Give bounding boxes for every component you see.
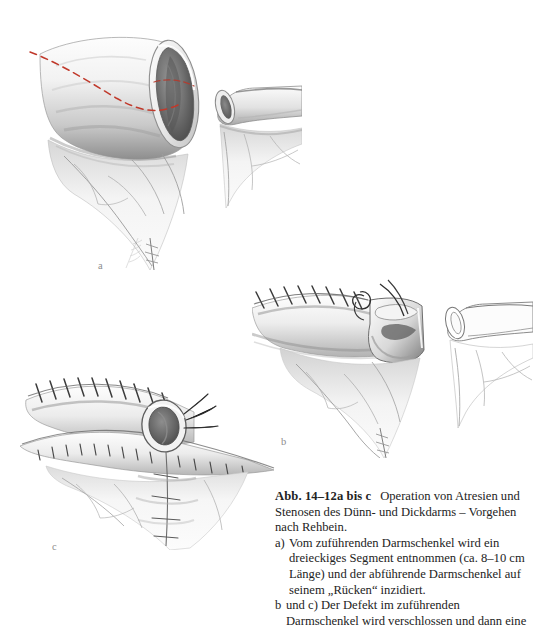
figure-panel-b: [252, 278, 533, 458]
panel-label-c: c: [52, 541, 57, 552]
figure-number: Abb. 14–12a bis c: [275, 489, 371, 503]
panel-label-a: a: [98, 260, 103, 271]
caption-text-b: und c) Der Defekt im zuführenden Darmsch…: [286, 598, 531, 629]
figure-page: a: [0, 0, 533, 632]
figure-panel-c: [18, 368, 280, 550]
artist-signature: [118, 228, 158, 272]
caption-marker-a: a): [275, 536, 289, 552]
figure-caption: Abb. 14–12a bis cOperation von Atresien …: [275, 489, 531, 629]
panel-label-b: b: [281, 436, 287, 447]
caption-item-a: a) Vom zuführenden Darmschenkel wird ein…: [275, 536, 531, 598]
mesentery-b: [280, 348, 420, 458]
caption-item-b: b und c) Der Defekt im zuführenden Darms…: [275, 598, 531, 629]
caption-text-a: Vom zuführenden Darmschenkel wird ein dr…: [289, 536, 531, 598]
distal-mesentery-b: [450, 340, 533, 428]
caption-marker-b: b: [275, 598, 286, 614]
caption-title-line-1: Operation von Atresien: [380, 489, 498, 503]
caption-title: Abb. 14–12a bis cOperation von Atresien …: [275, 489, 531, 536]
distal-mesentery: [220, 124, 302, 208]
